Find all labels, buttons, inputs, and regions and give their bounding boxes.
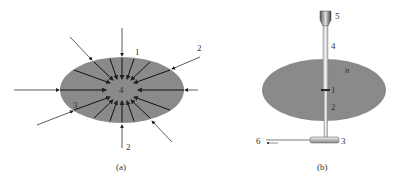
label-a-4-center: 4	[119, 85, 124, 95]
panel-b: 5 4 n 1 2 3 6 (b)	[256, 11, 386, 172]
base-component	[310, 137, 339, 143]
label-a-1: 1	[135, 47, 140, 57]
label-b-6: 6	[256, 136, 261, 146]
label-a-2-bottom: 2	[126, 142, 131, 152]
lower-tube	[324, 91, 328, 138]
cap-component	[320, 11, 331, 26]
label-b-5: 5	[335, 11, 340, 21]
label-b-2: 2	[331, 102, 336, 112]
upper-tube	[323, 26, 328, 90]
label-b-1: 1	[331, 85, 336, 95]
panel-a: 1 2 4 3 2 (a)	[14, 28, 202, 172]
label-a-3: 3	[73, 100, 78, 110]
label-a-2-top: 2	[197, 43, 202, 53]
figure: 1 2 4 3 2 (a) 5 4 n 1 2 3 6 (b)	[0, 0, 398, 183]
label-b-n: n	[345, 65, 350, 75]
caption-a: (a)	[116, 162, 126, 172]
junction-marker	[321, 89, 330, 91]
label-b-3: 3	[341, 136, 346, 146]
label-b-4: 4	[331, 41, 336, 51]
caption-b: (b)	[317, 162, 328, 172]
